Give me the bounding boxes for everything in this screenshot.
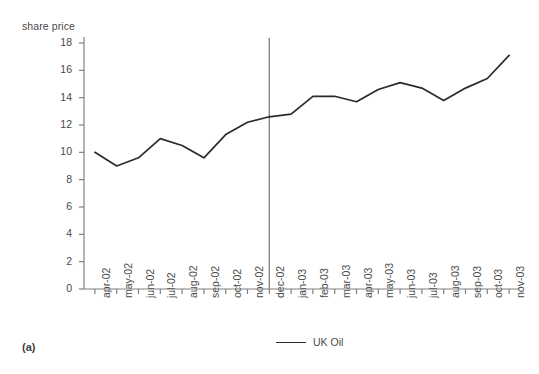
- legend-label-uk-oil: UK Oil: [313, 336, 343, 348]
- figure-caption: (a): [22, 341, 35, 353]
- chart-legend: UK Oil: [276, 336, 343, 348]
- data-series-uk-oil: [95, 55, 509, 166]
- plot-area: [0, 0, 539, 374]
- chart-figure: share price 024681012141618 apr-02may-02…: [0, 0, 539, 374]
- series-line-uk-oil: [95, 55, 509, 166]
- legend-swatch-uk-oil: [276, 342, 306, 343]
- axis-lines: [84, 37, 520, 289]
- tick-marks: [79, 43, 509, 294]
